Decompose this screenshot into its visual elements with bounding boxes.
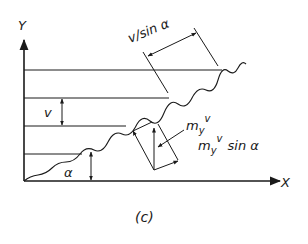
alpha-label: α — [64, 165, 73, 180]
diagonal-spacing-label: v/sin α — [126, 15, 172, 45]
horizontal-lines — [24, 70, 222, 154]
v-spacing-label: v — [44, 105, 52, 120]
my-v-sin-alpha-label: myvsin α — [198, 133, 259, 156]
vector-components — [133, 122, 184, 170]
diagram-canvas: Y X v α v/sin α — [0, 0, 308, 244]
figure-caption: (c) — [135, 209, 154, 225]
diagonal-spacing-dimension — [143, 28, 218, 93]
x-axis-label: X — [280, 175, 291, 190]
y-axis-label: Y — [18, 18, 27, 33]
wavy-surface-line — [24, 63, 246, 181]
my-v-label: myv — [186, 113, 212, 136]
